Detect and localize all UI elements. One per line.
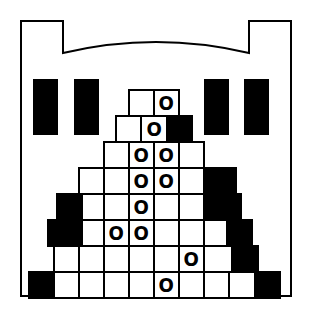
marble-glyph: O	[159, 146, 174, 165]
marble-brick[interactable]: O	[153, 89, 180, 117]
brick[interactable]	[203, 219, 228, 247]
brick[interactable]	[178, 167, 205, 195]
marble-brick[interactable]: O	[153, 167, 180, 195]
marble-brick[interactable]: O	[153, 141, 180, 169]
marble-glyph: O	[159, 276, 174, 295]
brick[interactable]	[53, 245, 80, 273]
brick[interactable]	[153, 245, 180, 273]
brick[interactable]	[103, 141, 130, 169]
black-brick[interactable]	[47, 219, 83, 247]
marble-brick[interactable]: O	[128, 141, 155, 169]
brick[interactable]	[78, 167, 105, 195]
marble-brick[interactable]: O	[178, 245, 205, 273]
marble-glyph: O	[109, 224, 124, 243]
black-brick[interactable]	[203, 193, 242, 221]
castle-window	[33, 79, 58, 135]
brick[interactable]	[153, 193, 180, 221]
marble-glyph: O	[134, 224, 149, 243]
brick[interactable]	[178, 141, 205, 169]
marble-brick[interactable]: O	[128, 167, 155, 195]
castle-window	[74, 79, 99, 135]
black-brick[interactable]	[254, 271, 281, 299]
marble-glyph: O	[146, 120, 161, 139]
black-brick[interactable]	[166, 115, 193, 143]
game-board: OOOOOOOOOOO	[0, 0, 310, 316]
brick[interactable]	[128, 89, 155, 117]
brick[interactable]	[178, 193, 205, 221]
black-brick[interactable]	[226, 219, 253, 247]
brick[interactable]	[78, 245, 105, 273]
brick[interactable]	[128, 271, 155, 299]
marble-brick[interactable]: O	[128, 219, 155, 247]
brick[interactable]	[103, 271, 130, 299]
brick[interactable]	[81, 219, 105, 247]
black-brick[interactable]	[28, 271, 55, 299]
marble-glyph: O	[134, 172, 149, 191]
brick[interactable]	[178, 219, 205, 247]
marble-brick[interactable]: O	[128, 193, 155, 221]
brick[interactable]	[153, 219, 180, 247]
castle-window	[204, 79, 229, 135]
brick[interactable]	[178, 271, 205, 299]
brick[interactable]	[81, 193, 105, 221]
black-brick[interactable]	[56, 193, 83, 221]
marble-brick[interactable]: O	[140, 115, 168, 143]
brick[interactable]	[78, 271, 105, 299]
brick[interactable]	[203, 271, 230, 299]
marble-brick[interactable]: O	[153, 271, 180, 299]
marble-brick[interactable]: O	[103, 219, 130, 247]
brick[interactable]	[103, 193, 130, 221]
brick[interactable]	[128, 245, 155, 273]
marble-glyph: O	[159, 172, 174, 191]
brick[interactable]	[203, 245, 233, 273]
marble-glyph: O	[184, 250, 199, 269]
brick[interactable]	[53, 271, 80, 299]
castle-window	[244, 79, 269, 135]
black-brick[interactable]	[231, 245, 259, 273]
black-brick[interactable]	[203, 167, 237, 195]
brick[interactable]	[103, 167, 130, 195]
brick[interactable]	[115, 115, 142, 143]
brick[interactable]	[228, 271, 256, 299]
marble-glyph: O	[134, 198, 149, 217]
marble-glyph: O	[134, 146, 149, 165]
brick[interactable]	[103, 245, 130, 273]
marble-glyph: O	[159, 94, 174, 113]
